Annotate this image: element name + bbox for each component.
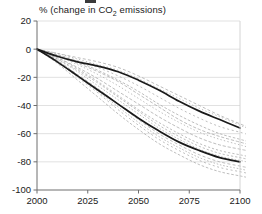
y-tick-label: 20 xyxy=(20,15,31,26)
envelope-line xyxy=(37,49,240,128)
x-tick-label: 2075 xyxy=(179,195,200,206)
x-tick-label: 2050 xyxy=(128,195,149,206)
y-tick-label: -20 xyxy=(17,72,31,83)
gridlines-group xyxy=(37,49,240,162)
y-tick-label: -100 xyxy=(12,184,31,195)
scenario-line xyxy=(37,49,246,170)
y-tick-label: -40 xyxy=(17,100,31,111)
x-tick-label: 2025 xyxy=(77,195,98,206)
chart-plot-area: 200-20-40-60-80-10020002025205020752100 xyxy=(0,0,262,214)
tick-marks-group xyxy=(34,21,241,194)
x-tick-label: 2100 xyxy=(229,195,250,206)
y-tick-label: 0 xyxy=(26,44,31,55)
scenario-lines-group xyxy=(37,49,246,177)
scenario-line xyxy=(37,49,246,167)
y-tick-label: -80 xyxy=(17,156,31,167)
y-tick-label: -60 xyxy=(17,128,31,139)
chart-figure: % (change in CO2 emissions) 200-20-40-60… xyxy=(0,0,262,214)
tick-labels-group: 200-20-40-60-80-10020002025205020752100 xyxy=(12,15,251,206)
x-tick-label: 2000 xyxy=(26,195,47,206)
